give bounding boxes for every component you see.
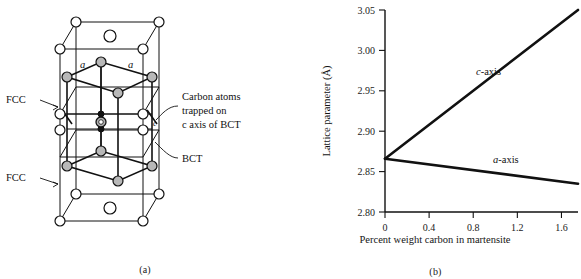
y-tick-label: 3.05 <box>358 5 376 16</box>
label-carbon-note-line3: c axis of BCT <box>182 119 241 130</box>
figure-root: a a c FCC FCC Carbon atoms trapped on c … <box>0 0 581 279</box>
atom-face-center-bottom <box>104 202 116 214</box>
crystal-structure-svg: a a c FCC FCC Carbon atoms trapped on c … <box>0 0 290 255</box>
bct-body-center-lines <box>67 62 152 151</box>
edge-label-a-left: a <box>80 59 85 70</box>
atom-gray-circle <box>147 161 157 171</box>
y-tick-label: 3.00 <box>358 45 376 56</box>
label-bct: BCT <box>182 153 203 164</box>
bct-leader <box>155 142 178 158</box>
label-fcc-lower: FCC <box>6 172 26 183</box>
atom-open-circle <box>71 189 81 199</box>
atom-open-circle <box>138 125 148 135</box>
atom-carbon-body-center <box>96 117 106 127</box>
y-tick-label: 2.80 <box>358 207 376 218</box>
series-label-a-axis: a-axis <box>493 154 519 165</box>
atom-solid-dot <box>98 111 104 117</box>
atom-gray-circle <box>96 57 106 67</box>
atom-open-circle <box>55 125 65 135</box>
atom-open-circle <box>71 17 81 27</box>
lattice-parameter-chart-svg: 2.802.852.902.953.003.05 00.40.81.21.6 c… <box>290 0 581 255</box>
bct-inner-cell <box>67 62 152 181</box>
panel-b-lattice-parameter-chart: 2.802.852.902.953.003.05 00.40.81.21.6 c… <box>290 0 581 279</box>
atom-open-circle <box>55 216 65 226</box>
chart-x-ticklabels: 00.40.81.21.6 <box>383 222 568 233</box>
chart-axes <box>385 10 578 212</box>
y-tick-label: 2.95 <box>358 85 376 96</box>
chart-y-axis-title: Lattice parameter (Å) <box>321 65 333 156</box>
series-label-c-axis: c-axis <box>476 66 501 77</box>
chart-series-lines <box>385 10 578 184</box>
y-tick-label: 2.85 <box>358 166 376 177</box>
label-carbon-note-line1: Carbon atoms <box>182 91 241 102</box>
label-fcc-upper: FCC <box>6 94 26 105</box>
atom-gray-circle <box>147 72 157 82</box>
y-tick-label: 2.90 <box>358 126 376 137</box>
atom-group-fcc-open <box>55 17 164 226</box>
x-tick-label: 0.8 <box>467 222 480 233</box>
atom-open-circle <box>138 109 148 119</box>
series-line-c-axis <box>385 10 578 159</box>
chart-y-ticklabels: 2.802.852.902.953.003.05 <box>358 5 376 218</box>
atom-gray-circle <box>96 146 106 156</box>
panel-a-caption: (a) <box>0 264 290 275</box>
atom-face-center-top <box>104 30 116 42</box>
edge-label-a-right: a <box>128 59 133 70</box>
panel-b-caption: (b) <box>290 266 581 277</box>
x-tick-label: 0.4 <box>423 222 436 233</box>
chart-y-ticks <box>379 10 385 212</box>
atom-open-circle <box>138 216 148 226</box>
fcc-lower-arrowhead <box>53 182 58 187</box>
x-tick-label: 1.2 <box>511 222 524 233</box>
atom-open-circle <box>55 44 65 54</box>
atom-gray-circle <box>62 161 72 171</box>
panel-a-crystal-structure: a a c FCC FCC Carbon atoms trapped on c … <box>0 0 290 279</box>
atom-open-circle <box>154 189 164 199</box>
atom-gray-circle <box>62 72 72 82</box>
series-line-a-axis <box>385 159 578 184</box>
chart-x-ticks <box>385 212 561 218</box>
x-tick-label: 0 <box>383 222 388 233</box>
atom-open-circle <box>154 17 164 27</box>
atom-open-circle <box>55 109 65 119</box>
chart-x-axis-title: Percent weight carbon in martensite <box>359 234 510 245</box>
x-tick-label: 1.6 <box>555 222 568 233</box>
label-carbon-note-line2: trapped on <box>182 105 227 116</box>
atom-gray-circle <box>113 88 123 98</box>
atom-open-circle <box>138 44 148 54</box>
atom-gray-circle <box>113 176 123 186</box>
